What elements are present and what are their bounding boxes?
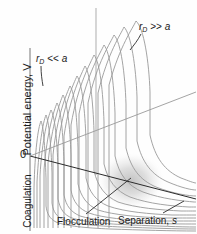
debye-small-relation: <<	[44, 53, 61, 64]
separation-label: Separation, s	[118, 216, 177, 226]
debye-big-relation: >>	[147, 21, 164, 32]
leader-line-rd-small	[41, 66, 43, 86]
separation-label-text: Separation,	[118, 215, 172, 226]
dlvo-diagram: Potential energy, V 0 Coagulation Floccu…	[0, 0, 197, 234]
debye-big-label: rD >> a	[139, 22, 170, 33]
leader-line-rd-big	[130, 34, 141, 50]
coagulation-label: Coagulation	[23, 165, 33, 234]
debye-small-label: rD << a	[36, 54, 67, 65]
zero-tick-label: 0	[20, 149, 26, 160]
debye-small-radius: a	[62, 53, 68, 64]
flocculation-label: Flocculation	[57, 217, 110, 227]
separation-variable: s	[172, 215, 177, 226]
debye-big-radius: a	[165, 21, 171, 32]
y-axis-label: Potential energy, V	[22, 35, 33, 185]
flocculation-shading	[97, 152, 165, 210]
